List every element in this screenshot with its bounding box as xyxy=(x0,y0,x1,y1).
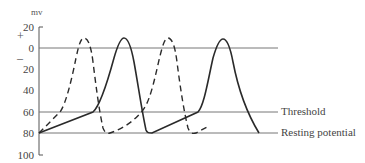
threshold-label: Threshold xyxy=(281,106,326,117)
solid-trace xyxy=(39,38,259,133)
y-tick-60: 60 xyxy=(8,107,34,118)
y-tick-100: 100 xyxy=(8,150,34,161)
y-axis-unit-label: mv xyxy=(31,7,43,18)
y-tick-80: 80 xyxy=(8,128,34,139)
y-tick-20-positive: 20 xyxy=(8,22,34,33)
resting-potential-label: Resting potential xyxy=(281,127,356,138)
action-potential-plot xyxy=(0,0,365,163)
y-tick-40: 40 xyxy=(8,85,34,96)
y-tick-20: 20 xyxy=(8,64,34,75)
y-tick-0: 0 xyxy=(8,43,34,54)
